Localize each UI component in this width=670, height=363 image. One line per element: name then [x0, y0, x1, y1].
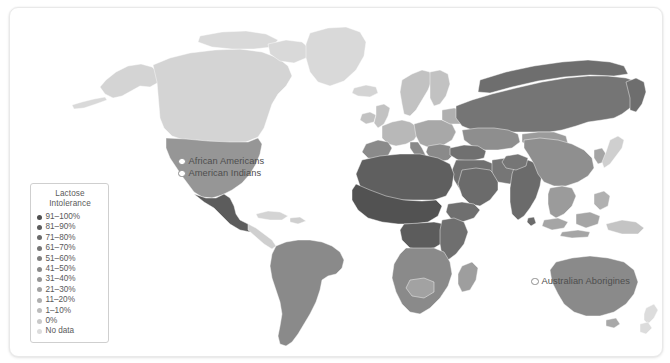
- annotation-marker-icon: [531, 278, 539, 286]
- legend-item-label: 91–100%: [46, 213, 81, 221]
- legend-swatch-icon: [37, 225, 42, 230]
- legend-item-label: 0%: [46, 317, 58, 325]
- region-canada[interactable]: [153, 49, 292, 143]
- legend-swatch-icon: [37, 246, 42, 251]
- legend-item[interactable]: 1–10%: [36, 306, 104, 316]
- region-central-europe[interactable]: [414, 120, 456, 148]
- legend-swatch-icon: [37, 329, 42, 334]
- region-scandinavia[interactable]: [400, 70, 432, 116]
- annotation-marker-icon: [178, 170, 186, 178]
- legend-item[interactable]: 61–70%: [36, 243, 104, 253]
- region-finland[interactable]: [430, 70, 450, 106]
- region-canadian-arctic[interactable]: [198, 31, 278, 49]
- legend-item[interactable]: 41–50%: [36, 264, 104, 274]
- legend-swatch-icon: [37, 319, 42, 324]
- map-legend: Lactose Intolerance 91–100%81–90%71–80%6…: [30, 183, 109, 343]
- annotation-australian-aborigines[interactable]: Australian Aborigines: [531, 277, 630, 286]
- legend-item-label: 41–50%: [46, 265, 76, 273]
- legend-item-label: 81–90%: [46, 223, 76, 231]
- legend-item[interactable]: 11–20%: [36, 295, 104, 305]
- region-greenland[interactable]: [306, 27, 366, 86]
- region-tasmania[interactable]: [606, 318, 620, 328]
- region-caribbean[interactable]: [256, 211, 288, 220]
- legend-item[interactable]: 51–60%: [36, 254, 104, 264]
- legend-swatch-icon: [37, 235, 42, 240]
- legend-swatch-icon: [37, 267, 42, 272]
- region-ireland[interactable]: [360, 112, 376, 124]
- legend-swatch-icon: [37, 277, 42, 282]
- legend-item-label: 31–40%: [46, 275, 76, 283]
- legend-swatch-icon: [37, 287, 42, 292]
- legend-title: Lactose Intolerance: [36, 189, 104, 209]
- legend-swatch-icon: [37, 256, 42, 261]
- legend-item-label: No data: [46, 327, 75, 335]
- legend-item[interactable]: 31–40%: [36, 274, 104, 284]
- legend-swatch-icon: [37, 308, 42, 313]
- legend-item-label: 1–10%: [46, 307, 72, 315]
- legend-item-label: 11–20%: [46, 296, 75, 304]
- annotation-label: African Americans: [189, 157, 265, 166]
- region-south-america[interactable]: [270, 240, 344, 346]
- legend-swatch-icon: [37, 298, 42, 303]
- region-alaska[interactable]: [100, 64, 160, 98]
- legend-item[interactable]: 81–90%: [36, 222, 104, 232]
- region-iceland[interactable]: [352, 85, 378, 97]
- region-new-zealand[interactable]: [644, 304, 658, 324]
- legend-title-line-2: Intolerance: [36, 199, 104, 209]
- region-sri-lanka[interactable]: [527, 217, 536, 226]
- annotation-label: American Indians: [189, 169, 262, 178]
- region-indonesia-java[interactable]: [560, 230, 590, 238]
- annotation-american-indians[interactable]: American Indians: [178, 169, 261, 178]
- legend-item[interactable]: No data: [36, 326, 104, 336]
- region-new-guinea[interactable]: [606, 220, 644, 234]
- region-indochina[interactable]: [548, 186, 576, 218]
- legend-swatch-icon: [37, 215, 42, 220]
- legend-item[interactable]: 71–80%: [36, 233, 104, 243]
- region-japan[interactable]: [602, 136, 624, 168]
- region-philippines[interactable]: [594, 191, 610, 210]
- region-aleutians[interactable]: [72, 97, 107, 109]
- map-card: African Americans American Indians Austr…: [9, 7, 663, 357]
- world-map[interactable]: African Americans American Indians Austr…: [10, 8, 662, 356]
- legend-item-label: 21–30%: [46, 286, 76, 294]
- legend-item-label: 71–80%: [46, 234, 76, 242]
- annotation-marker-icon: [178, 158, 186, 166]
- legend-item-label: 51–60%: [46, 255, 76, 263]
- region-borneo[interactable]: [576, 212, 600, 228]
- legend-title-line-1: Lactose: [36, 189, 104, 199]
- region-madagascar[interactable]: [458, 262, 478, 292]
- region-turkey[interactable]: [450, 145, 486, 161]
- legend-item-label: 61–70%: [46, 244, 76, 252]
- legend-item[interactable]: 0%: [36, 316, 104, 326]
- annotation-african-americans[interactable]: African Americans: [178, 157, 264, 166]
- region-hispaniola[interactable]: [290, 217, 306, 224]
- region-central-america[interactable]: [248, 224, 276, 249]
- legend-item[interactable]: 91–100%: [36, 212, 104, 222]
- region-new-zealand-south[interactable]: [640, 322, 652, 334]
- legend-item[interactable]: 21–30%: [36, 285, 104, 295]
- region-indonesia-sumatra[interactable]: [542, 218, 568, 230]
- region-arabian-peninsula[interactable]: [458, 168, 498, 206]
- region-mexico[interactable]: [194, 194, 254, 232]
- legend-items: 91–100%81–90%71–80%61–70%51–60%41–50%31–…: [36, 212, 104, 337]
- annotation-label: Australian Aborigines: [542, 277, 630, 286]
